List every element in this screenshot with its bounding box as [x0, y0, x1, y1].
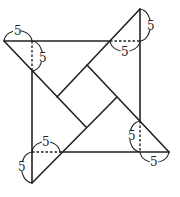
- label-top-left-horizontal: 5: [13, 24, 22, 38]
- label-top-right-horizontal: 5: [121, 45, 129, 59]
- label-bottom-left-horizontal: 5: [42, 135, 50, 149]
- svg-text:5: 5: [18, 160, 26, 174]
- svg-text:5: 5: [14, 24, 22, 38]
- label-bottom-right-horizontal: 5: [150, 155, 158, 169]
- svg-text:5: 5: [39, 51, 47, 65]
- svg-text:5: 5: [42, 135, 50, 149]
- label-bottom-right-vertical: 5: [128, 129, 136, 143]
- label-top-left-vertical: 5: [39, 51, 47, 65]
- svg-text:5: 5: [147, 19, 155, 33]
- svg-text:5: 5: [128, 129, 136, 143]
- svg-text:5: 5: [121, 45, 129, 59]
- label-top-right-vertical: 5: [147, 19, 155, 33]
- label-bottom-left-vertical: 5: [18, 160, 26, 174]
- svg-text:5: 5: [150, 155, 158, 169]
- pinwheel-square-diagram: 5 5 5 5 5 5 5 5: [0, 0, 180, 197]
